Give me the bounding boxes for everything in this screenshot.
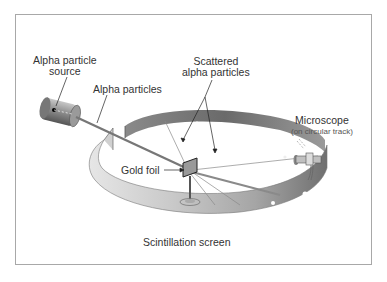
ring-hole bbox=[196, 122, 199, 125]
label-microscope: Microscope (on circular track) bbox=[291, 115, 353, 137]
ring-hole bbox=[271, 201, 275, 205]
ring-hole bbox=[303, 192, 308, 197]
label-gold-foil: Gold foil bbox=[121, 165, 160, 176]
alpha-source-icon bbox=[37, 96, 82, 128]
label-source: Alpha particle source bbox=[33, 55, 97, 77]
label-source-line2: source bbox=[33, 66, 97, 77]
label-scintillation-screen: Scintillation screen bbox=[143, 237, 231, 248]
label-alpha-particles: Alpha particles bbox=[93, 84, 162, 95]
ring-hole bbox=[283, 155, 286, 158]
label-scattered: Scattered alpha particles bbox=[182, 56, 250, 78]
label-microscope-note: (on circular track) bbox=[291, 126, 353, 137]
label-microscope-title: Microscope bbox=[291, 115, 353, 126]
label-scattered-line2: alpha particles bbox=[182, 67, 250, 78]
